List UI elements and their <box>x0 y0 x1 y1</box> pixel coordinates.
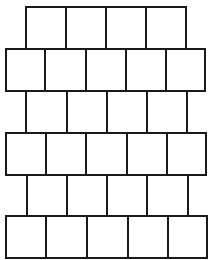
grid-cell <box>45 215 88 259</box>
grid-cell <box>85 132 128 176</box>
grid-cell <box>26 174 68 217</box>
grid-cell <box>106 174 148 217</box>
grid-cell <box>25 6 67 50</box>
grid-cell <box>44 48 87 92</box>
grid-cell <box>65 6 107 50</box>
grid-cell <box>5 132 47 176</box>
grid-cell <box>105 6 147 50</box>
grid-cell <box>5 48 46 92</box>
grid-cell <box>127 215 169 259</box>
grid-cell <box>106 90 148 134</box>
grid-cell <box>66 90 108 134</box>
staggered-grid-diagram <box>0 0 211 260</box>
grid-cell <box>146 90 188 134</box>
grid-cell <box>86 215 129 259</box>
grid-cell <box>166 132 207 176</box>
grid-cell <box>66 174 108 217</box>
grid-cell <box>126 132 168 176</box>
grid-cell <box>146 174 189 217</box>
grid-cell <box>167 215 208 259</box>
grid-cell <box>45 132 87 176</box>
grid-cell <box>5 215 47 259</box>
grid-cell <box>165 48 206 92</box>
grid-cell <box>145 6 187 50</box>
grid-cell <box>125 48 167 92</box>
grid-cell <box>25 90 68 134</box>
grid-cell <box>85 48 127 92</box>
